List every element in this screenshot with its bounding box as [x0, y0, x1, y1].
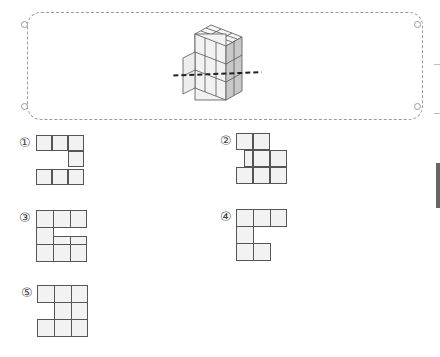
net-cell	[253, 150, 270, 167]
hole-icon	[414, 21, 421, 28]
net-cell	[54, 285, 72, 303]
net-cell	[53, 244, 71, 262]
option-3-label: ③	[19, 211, 31, 225]
net-cell	[236, 133, 253, 150]
net-cell	[36, 210, 54, 228]
edge-mark	[434, 113, 440, 114]
net-cell	[236, 226, 254, 244]
net-cell	[253, 167, 270, 184]
net-cell	[70, 244, 87, 262]
net-cell	[36, 169, 52, 185]
net-cell	[253, 209, 271, 227]
net-cell	[71, 302, 88, 320]
option-2-label: ②	[220, 134, 232, 148]
side-tab	[436, 163, 440, 208]
hole-icon	[21, 21, 28, 28]
net-cell	[270, 150, 287, 167]
cube-stack-figure	[165, 20, 275, 110]
net-cell	[253, 243, 271, 261]
net-cell	[68, 135, 84, 151]
net-cell	[244, 150, 253, 167]
net-cell	[236, 243, 254, 261]
net-cell	[54, 319, 72, 337]
net-cell	[52, 169, 68, 185]
net-cell	[270, 209, 287, 227]
net-cell	[36, 135, 52, 151]
net-cell	[54, 302, 72, 320]
option-5-label: ⑤	[21, 286, 33, 300]
net-cell	[68, 169, 84, 185]
net-cell	[270, 167, 287, 184]
net-cell	[253, 133, 270, 150]
net-cell	[71, 285, 88, 303]
net-cell	[236, 167, 253, 184]
net-cell	[71, 319, 88, 337]
hole-icon	[414, 103, 421, 110]
net-cell	[52, 135, 68, 151]
net-cell	[53, 210, 71, 228]
edge-mark	[434, 64, 440, 65]
net-cell	[37, 319, 55, 337]
net-cell	[236, 209, 254, 227]
net-cell	[68, 151, 84, 167]
net-cell	[36, 244, 54, 262]
option-4-label: ④	[220, 210, 232, 224]
net-cell	[36, 227, 54, 245]
option-1-label: ①	[19, 136, 31, 150]
net-cell	[70, 210, 87, 228]
net-cell	[37, 285, 55, 303]
hole-icon	[21, 103, 28, 110]
